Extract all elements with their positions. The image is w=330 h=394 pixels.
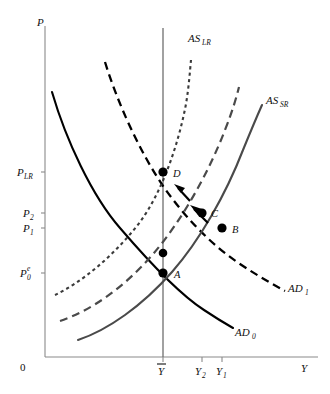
x-tick-label-y-1: Y 1 bbox=[216, 365, 227, 380]
x-axis-label: Y bbox=[301, 362, 309, 374]
y-tick-label-p-1-base: P bbox=[22, 222, 30, 234]
point-unlabeled-marker[interactable] bbox=[159, 249, 168, 258]
y-tick-label-p-0e-base: P bbox=[19, 267, 27, 279]
point-c-label: C bbox=[211, 208, 219, 219]
curve-label-ad-0: AD 0 bbox=[234, 326, 256, 341]
y-tick-label-p-1: P 1 bbox=[22, 222, 34, 237]
point-d-label: D bbox=[172, 168, 181, 179]
curve-label-ad-0-sub: 0 bbox=[252, 332, 256, 341]
figure-root: A B C D P Y 0 P LR P 2 P 1 P 0 e Y bbox=[0, 0, 330, 394]
curve-label-ad-1-base: AD bbox=[287, 282, 303, 294]
y-tick-label-p-lr-sub: LR bbox=[23, 172, 33, 181]
x-ticks-group bbox=[163, 357, 222, 362]
y-tick-label-p-0e: P 0 e bbox=[19, 264, 31, 282]
origin-label: 0 bbox=[20, 361, 26, 373]
curve-as-lr bbox=[55, 60, 191, 295]
ad-as-diagram: A B C D P Y 0 P LR P 2 P 1 P 0 e Y bbox=[0, 0, 330, 394]
y-tick-label-p-2-base: P bbox=[22, 207, 30, 219]
point-c-marker[interactable] bbox=[197, 208, 206, 217]
x-tick-label-y-bar-base: Y bbox=[158, 365, 166, 377]
curve-label-ad-1-sub: 1 bbox=[305, 288, 309, 297]
y-tick-label-p-2-sub: 2 bbox=[30, 213, 34, 222]
y-tick-label-p-1-sub: 1 bbox=[30, 228, 34, 237]
curve-label-as-lr-base: AS bbox=[187, 32, 201, 44]
y-axis-label: P bbox=[36, 16, 44, 28]
x-tick-label-y-2-sub: 2 bbox=[202, 371, 206, 380]
curve-label-ad-1: AD 1 bbox=[287, 282, 309, 297]
curve-as-sr-shifted bbox=[60, 87, 239, 321]
curve-ad-0 bbox=[52, 92, 233, 328]
x-tick-label-y-bar: Y bbox=[157, 364, 166, 377]
point-d-marker[interactable] bbox=[158, 167, 167, 176]
arrow-upper-icon bbox=[174, 184, 190, 201]
point-b-label: B bbox=[232, 224, 239, 235]
curve-label-as-lr-sub: LR bbox=[201, 38, 211, 47]
y-tick-label-p-0e-sub: 0 bbox=[27, 273, 31, 282]
curve-ad-1 bbox=[105, 62, 285, 291]
curve-label-ad-0-base: AD bbox=[234, 326, 250, 338]
y-tick-label-p-0e-sup: e bbox=[27, 264, 31, 273]
y-ticks-group bbox=[41, 172, 45, 273]
curve-label-as-sr-sub: SR bbox=[280, 100, 289, 109]
y-tick-label-p-lr-base: P bbox=[16, 166, 24, 178]
point-a-marker[interactable] bbox=[158, 268, 167, 277]
y-tick-label-p-2: P 2 bbox=[22, 207, 34, 222]
x-tick-label-y-2: Y 2 bbox=[195, 365, 206, 380]
curve-label-as-sr-base: AS bbox=[265, 94, 279, 106]
curve-label-as-sr: AS SR bbox=[265, 94, 289, 109]
x-tick-label-y-1-sub: 1 bbox=[223, 371, 227, 380]
curve-label-as-lr: AS LR bbox=[187, 32, 211, 47]
y-tick-label-p-lr: P LR bbox=[16, 166, 33, 181]
point-b-marker[interactable] bbox=[217, 223, 226, 232]
curve-as-sr bbox=[78, 105, 262, 340]
point-a-label: A bbox=[173, 269, 181, 280]
